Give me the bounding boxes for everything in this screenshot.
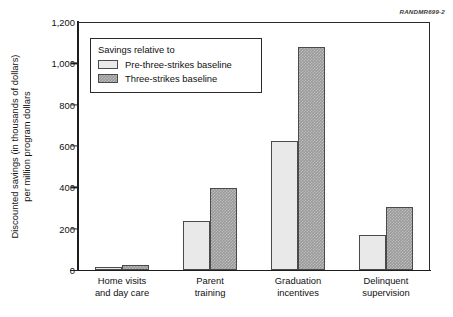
- chart-legend: Savings relative to Pre-three-strikes ba…: [90, 38, 262, 93]
- figure-id-label: RANDMR699-2: [399, 8, 445, 15]
- y-axis-tick-label: 1,200: [52, 17, 75, 28]
- y-axis-tick-mark: [71, 145, 78, 146]
- bar-group: [359, 22, 413, 270]
- legend-swatch-dark-icon: [98, 74, 118, 83]
- legend-label-pre-three-strikes: Pre-three-strikes baseline: [125, 59, 232, 70]
- y-axis-tick-mark: [71, 63, 78, 64]
- y-axis-tick-mark: [71, 104, 78, 105]
- legend-entry-three-strikes: Three-strikes baseline: [98, 72, 254, 85]
- y-axis-tick-mark: [71, 228, 78, 229]
- bar-group: [271, 22, 325, 270]
- bar[interactable]: [210, 188, 237, 270]
- y-axis-tick-mark: [71, 187, 78, 188]
- bar[interactable]: [183, 221, 210, 270]
- x-axis-category-label-line: Delinquent: [331, 275, 441, 287]
- bar[interactable]: [95, 267, 122, 270]
- x-axis-category-labels: Home visitsand day careParenttrainingGra…: [78, 275, 430, 311]
- legend-label-three-strikes: Three-strikes baseline: [125, 73, 217, 84]
- bar[interactable]: [122, 265, 149, 270]
- legend-entry-pre-three-strikes: Pre-three-strikes baseline: [98, 58, 254, 71]
- bar[interactable]: [298, 47, 325, 270]
- bar[interactable]: [386, 207, 413, 270]
- y-axis-title: Discounted savings (in thousands of doll…: [6, 22, 36, 271]
- x-axis-category-label: Delinquentsupervision: [331, 275, 441, 300]
- legend-swatch-light-icon: [98, 60, 118, 69]
- y-axis-title-line2: per million program dollars: [21, 91, 33, 201]
- y-axis-tick-labels: 02004006008001,0001,200: [36, 22, 75, 270]
- bar[interactable]: [271, 141, 298, 270]
- y-axis-title-line1: Discounted savings (in thousands of doll…: [9, 55, 21, 239]
- legend-title: Savings relative to: [98, 44, 254, 55]
- bar[interactable]: [359, 235, 386, 270]
- x-axis-category-label-line: supervision: [331, 287, 441, 299]
